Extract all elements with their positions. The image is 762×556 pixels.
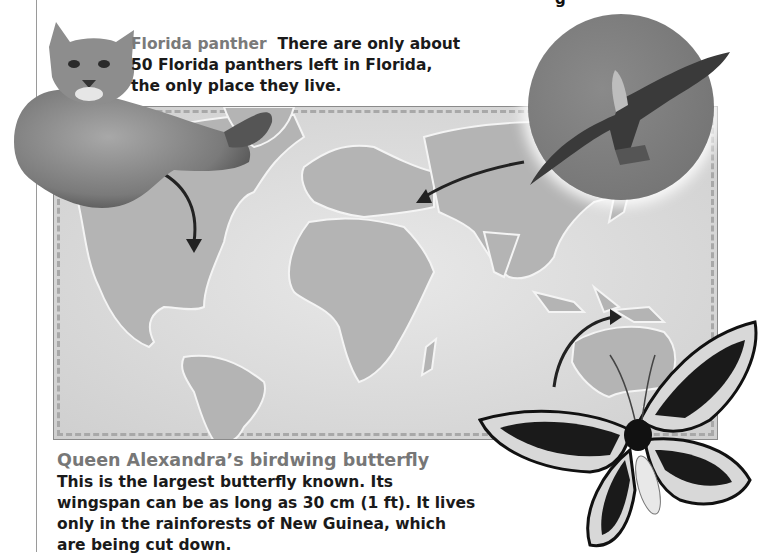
madagascar xyxy=(422,339,436,375)
butterfly-body: This is the largest butterfly known. Its… xyxy=(57,472,477,556)
europe xyxy=(302,146,434,217)
butterfly-caption: Queen Alexandra’s birdwing butterfly Thi… xyxy=(57,448,477,556)
panther-heading: Florida panther xyxy=(131,35,267,53)
panther-caption: Florida panther There are only about 50 … xyxy=(131,34,461,97)
southeast-asia-islands xyxy=(534,287,619,312)
bird-of-prey-image xyxy=(520,40,740,190)
cut-off-text-fragment: g xyxy=(555,0,566,8)
birdwing-butterfly-image xyxy=(470,310,762,552)
butterfly-heading: Queen Alexandra’s birdwing butterfly xyxy=(57,448,477,472)
south-america xyxy=(182,356,265,440)
africa xyxy=(289,218,434,382)
